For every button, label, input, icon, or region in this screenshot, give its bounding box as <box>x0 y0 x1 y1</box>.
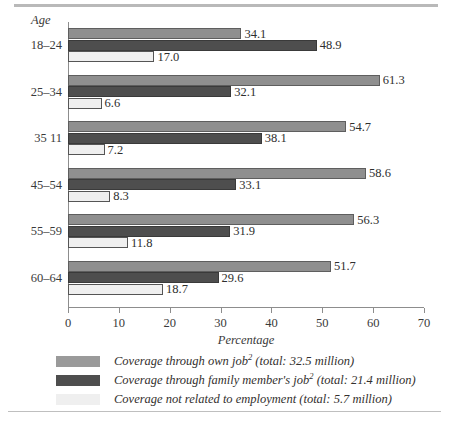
bar-value-label: 33.1 <box>239 177 261 192</box>
chart-legend: Coverage through own job2 (total: 32.5 m… <box>56 352 416 409</box>
bar-value-label: 6.6 <box>105 96 121 111</box>
bar <box>68 133 262 144</box>
legend-item: Coverage not related to employment (tota… <box>56 390 416 409</box>
x-axis-tick <box>322 308 323 313</box>
legend-swatch <box>56 356 100 367</box>
bar <box>68 121 346 132</box>
category-label: 60–64 <box>4 270 62 285</box>
x-axis-line <box>68 307 424 308</box>
bar <box>68 98 102 109</box>
bar-value-label: 7.2 <box>108 142 124 157</box>
bar-value-label: 54.7 <box>349 119 371 134</box>
legend-label: Coverage through own job2 (total: 32.5 m… <box>114 354 354 369</box>
legend-swatch <box>56 394 100 405</box>
x-axis-tick-label: 10 <box>113 316 126 331</box>
bar <box>68 284 163 295</box>
x-axis-tick-label: 50 <box>316 316 329 331</box>
bar-value-label: 48.9 <box>320 38 342 53</box>
x-axis-title: Percentage <box>218 333 274 348</box>
y-axis-title: Age <box>31 13 50 28</box>
x-axis-tick-label: 40 <box>265 316 278 331</box>
bar-value-label: 31.9 <box>233 224 255 239</box>
x-axis-tick <box>373 308 374 313</box>
bar-value-label: 51.7 <box>334 259 356 274</box>
x-axis-tick-label: 0 <box>65 316 71 331</box>
bar <box>68 28 241 39</box>
bar-value-label: 17.0 <box>157 49 179 64</box>
bar <box>68 272 219 283</box>
bottom-divider-rule <box>8 411 441 412</box>
bar <box>68 191 110 202</box>
bar <box>68 86 231 97</box>
bar <box>68 261 331 272</box>
bar-value-label: 32.1 <box>234 84 256 99</box>
bar-value-label: 29.6 <box>222 270 244 285</box>
legend-label: Coverage through family member's job2 (t… <box>114 373 416 388</box>
legend-swatch <box>56 375 100 386</box>
x-axis-tick <box>68 308 69 313</box>
x-axis-tick-label: 30 <box>214 316 227 331</box>
bar-value-label: 56.3 <box>357 212 379 227</box>
category-label: 55–59 <box>4 224 62 239</box>
bar <box>68 179 236 190</box>
bar <box>68 214 354 225</box>
category-label: 25–34 <box>4 84 62 99</box>
bar <box>68 51 154 62</box>
x-axis-tick-label: 60 <box>367 316 380 331</box>
bar-value-label: 61.3 <box>383 73 405 88</box>
legend-item: Coverage through own job2 (total: 32.5 m… <box>56 352 416 371</box>
x-axis-tick <box>221 308 222 313</box>
bar-value-label: 18.7 <box>166 282 188 297</box>
bar-value-label: 58.6 <box>369 166 391 181</box>
bar <box>68 75 380 86</box>
bar-value-label: 11.8 <box>131 235 152 250</box>
category-label: 35 11 <box>4 131 62 146</box>
x-axis-tick <box>170 308 171 313</box>
x-axis-tick-label: 70 <box>418 316 431 331</box>
bar-value-label: 8.3 <box>113 189 129 204</box>
category-label: 45–54 <box>4 177 62 192</box>
bar <box>68 237 128 248</box>
bar <box>68 144 105 155</box>
bar <box>68 168 366 179</box>
x-axis-tick <box>119 308 120 313</box>
x-axis-tick <box>271 308 272 313</box>
x-axis-tick-label: 20 <box>163 316 176 331</box>
bar <box>68 40 317 51</box>
legend-label: Coverage not related to employment (tota… <box>114 392 392 407</box>
category-label: 18–24 <box>4 38 62 53</box>
bar-value-label: 38.1 <box>265 131 287 146</box>
legend-item: Coverage through family member's job2 (t… <box>56 371 416 390</box>
x-axis-tick <box>424 308 425 313</box>
